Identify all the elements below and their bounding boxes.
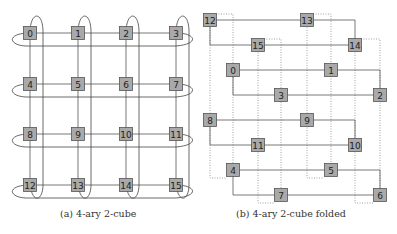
figure-a-4ary-2cube: 0123456789101112131415 (12, 16, 192, 198)
caption-a: (a) 4-ary 2-cube (60, 208, 136, 219)
node-label: 12 (204, 16, 215, 26)
node-label: 10 (120, 130, 132, 140)
node-15: 15 (170, 179, 183, 192)
node-12: 12 (204, 14, 217, 27)
node-label: 9 (304, 116, 310, 126)
node-13: 13 (72, 179, 85, 192)
node-label: 15 (252, 41, 263, 51)
node-2: 2 (120, 27, 133, 40)
node-label: 10 (349, 141, 361, 151)
node-label: 5 (75, 80, 81, 90)
node-11: 11 (252, 139, 265, 152)
node-3: 3 (275, 89, 288, 102)
node-5: 5 (72, 78, 85, 91)
node-0: 0 (24, 27, 37, 40)
node-label: 7 (173, 80, 179, 90)
node-15: 15 (252, 39, 265, 52)
figure-b-4ary-2cube-folded: 1213151401328911104576 (204, 14, 387, 204)
node-label: 4 (230, 166, 236, 176)
diagram-canvas: 0123456789101112131415 (0, 0, 397, 234)
node-12: 12 (24, 179, 37, 192)
node-label: 1 (328, 66, 334, 76)
node-label: 3 (173, 29, 179, 39)
node-10: 10 (120, 128, 133, 141)
node-label: 14 (120, 181, 132, 191)
node-label: 6 (377, 191, 383, 201)
column-edges (30, 33, 176, 185)
node-label: 15 (170, 181, 181, 191)
node-label: 11 (252, 141, 263, 151)
node-7: 7 (275, 189, 288, 202)
node-label: 3 (278, 91, 284, 101)
node-label: 2 (123, 29, 129, 39)
node-0: 0 (227, 64, 240, 77)
node-label: 7 (278, 191, 284, 201)
node-6: 6 (374, 189, 387, 202)
node-label: 13 (301, 16, 312, 26)
node-label: 8 (27, 130, 33, 140)
node-3: 3 (170, 27, 183, 40)
node-label: 12 (24, 181, 35, 191)
caption-b: (b) 4-ary 2-cube folded (236, 208, 346, 219)
node-13: 13 (301, 14, 314, 27)
node-label: 0 (27, 29, 33, 39)
row-edges (30, 33, 176, 185)
node-label: 6 (123, 80, 129, 90)
node-1: 1 (72, 27, 85, 40)
node-label: 11 (170, 130, 181, 140)
node-6: 6 (120, 78, 133, 91)
node-8: 8 (204, 114, 217, 127)
node-1: 1 (325, 64, 338, 77)
node-9: 9 (301, 114, 314, 127)
node-8: 8 (24, 128, 37, 141)
node-14: 14 (349, 39, 362, 52)
node-label: 4 (27, 80, 33, 90)
node-14: 14 (120, 179, 133, 192)
node-4: 4 (24, 78, 37, 91)
node-label: 8 (207, 116, 213, 126)
node-11: 11 (170, 128, 183, 141)
node-label: 0 (230, 66, 236, 76)
node-4: 4 (227, 164, 240, 177)
node-5: 5 (325, 164, 338, 177)
node-10: 10 (349, 139, 362, 152)
node-7: 7 (170, 78, 183, 91)
node-9: 9 (72, 128, 85, 141)
row-wraparound-rings (12, 33, 192, 198)
nodes-a: 0123456789101112131415 (24, 27, 183, 192)
node-label: 9 (75, 130, 81, 140)
node-2: 2 (374, 89, 387, 102)
column-wraparound-loops (30, 16, 189, 198)
nodes-b: 1213151401328911104576 (204, 14, 387, 202)
node-label: 13 (72, 181, 83, 191)
node-label: 2 (377, 91, 383, 101)
node-label: 14 (349, 41, 361, 51)
node-label: 1 (75, 29, 81, 39)
node-label: 5 (328, 166, 334, 176)
